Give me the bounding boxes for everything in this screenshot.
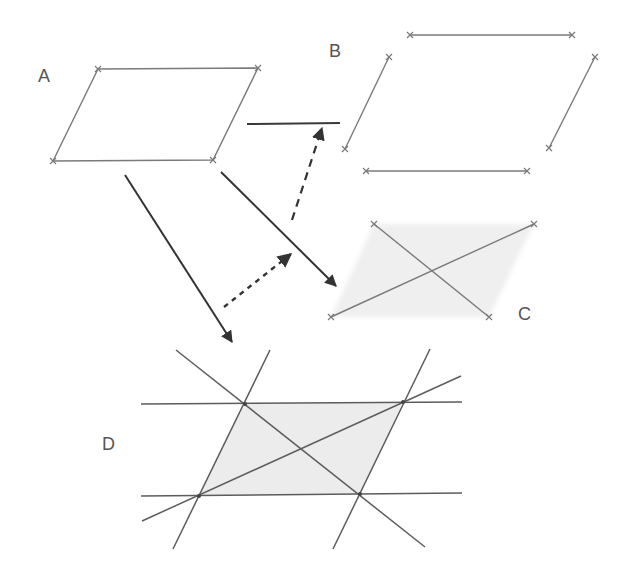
arrow-a-to-d	[125, 175, 232, 342]
vertex-markers-b	[342, 32, 598, 174]
panel-a: A	[38, 65, 261, 164]
label-b: B	[329, 41, 341, 61]
diagram-canvas: A B C	[0, 0, 627, 581]
side-segment	[247, 123, 340, 124]
line-d-diagonal-2	[142, 376, 461, 521]
label-a: A	[38, 66, 50, 86]
arrow-dashed	[292, 128, 322, 220]
label-c: C	[518, 304, 531, 324]
label-d: D	[102, 434, 115, 454]
parallelogram-a	[53, 68, 258, 161]
arrow-a-to-c	[221, 172, 336, 286]
segment-b-right	[549, 57, 595, 148]
vertex-markers-a	[50, 65, 261, 164]
segment-b-left	[345, 57, 389, 149]
panel-c: C	[328, 221, 537, 324]
panel-d: D	[102, 349, 462, 549]
line-d-top	[141, 402, 462, 404]
arrow-dotted	[224, 254, 291, 307]
panel-b: B	[329, 32, 598, 174]
